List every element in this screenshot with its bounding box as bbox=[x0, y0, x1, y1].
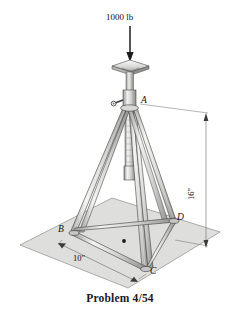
load-arrow bbox=[126, 26, 133, 62]
crank-handle bbox=[111, 100, 123, 106]
screw-column-upper bbox=[126, 72, 134, 92]
base-span-dimension-label: 10" bbox=[73, 253, 85, 263]
height-dimension-label: 16" bbox=[186, 188, 196, 200]
foot-b bbox=[69, 231, 79, 236]
point-label-c: C bbox=[150, 266, 156, 276]
apex-collar bbox=[121, 105, 139, 111]
ground-plane bbox=[20, 198, 220, 288]
figure-caption: Problem 4/54 bbox=[0, 292, 240, 304]
point-label-a: A bbox=[141, 95, 147, 105]
tripod-jack-figure bbox=[0, 0, 240, 320]
load-label: 1000 lb bbox=[106, 12, 133, 22]
base-center-point bbox=[122, 239, 126, 243]
point-label-b: B bbox=[58, 224, 64, 234]
point-label-d: D bbox=[177, 212, 184, 222]
